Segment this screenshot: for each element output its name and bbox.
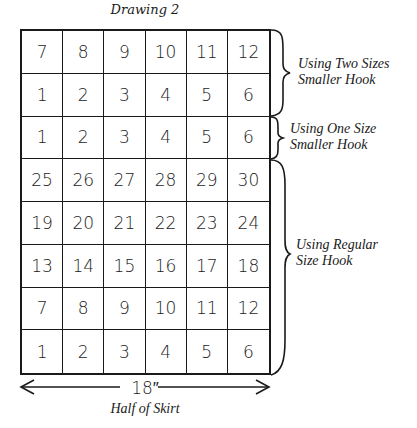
label-line: Smaller Hook — [298, 72, 390, 88]
brace-icon — [271, 160, 290, 375]
bracket-label-two-sizes: Using Two Sizes Smaller Hook — [298, 56, 390, 88]
caption: Half of Skirt — [0, 401, 290, 417]
bracket-label-regular: Using Regular Size Hook — [296, 237, 378, 269]
bracket-label-one-size: Using One Size Smaller Hook — [290, 121, 376, 153]
width-dimension: 18″ — [0, 378, 290, 399]
label-line: Using Regular — [296, 237, 378, 253]
brace-icon — [271, 117, 283, 159]
label-line: Using One Size — [290, 121, 376, 137]
label-line: Smaller Hook — [290, 137, 376, 153]
label-line: Using Two Sizes — [298, 56, 390, 72]
brace-icon — [271, 30, 290, 116]
label-line: Size Hook — [296, 253, 378, 269]
